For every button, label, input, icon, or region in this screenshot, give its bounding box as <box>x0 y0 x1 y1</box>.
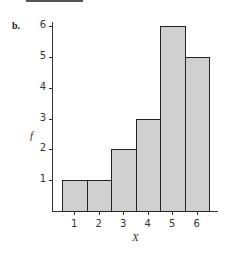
x-tick-label: 4 <box>142 218 154 229</box>
x-tick <box>74 211 75 215</box>
y-tick-label: 2 <box>36 142 46 153</box>
y-tick <box>49 88 53 89</box>
y-axis <box>52 22 53 211</box>
y-axis-title: f <box>30 129 33 141</box>
x-tick <box>99 211 100 215</box>
x-tick-label: 2 <box>93 218 105 229</box>
y-tick-label: 6 <box>36 19 46 30</box>
y-tick-label: 1 <box>36 173 46 184</box>
y-tick-label: 4 <box>36 81 46 92</box>
y-tick <box>49 26 53 27</box>
panel-label: b. <box>12 20 20 31</box>
x-axis-title: X <box>132 231 139 243</box>
x-tick-label: 6 <box>191 218 203 229</box>
x-tick-label: 5 <box>166 218 178 229</box>
x-tick <box>148 211 149 215</box>
top-rule <box>26 0 83 2</box>
y-tick-label: 3 <box>36 112 46 123</box>
x-tick <box>172 211 173 215</box>
y-tick <box>49 180 53 181</box>
bar-6 <box>185 57 211 212</box>
x-tick-label: 1 <box>68 218 80 229</box>
y-tick <box>49 149 53 150</box>
x-tick <box>197 211 198 215</box>
bar-4 <box>136 119 162 212</box>
y-tick-label: 5 <box>36 50 46 61</box>
bar-2 <box>87 180 113 212</box>
bar-5 <box>160 26 186 212</box>
x-tick-label: 3 <box>117 218 129 229</box>
bar-3 <box>111 149 137 212</box>
x-tick <box>123 211 124 215</box>
y-tick <box>49 57 53 58</box>
y-tick <box>49 119 53 120</box>
bar-1 <box>62 180 88 212</box>
